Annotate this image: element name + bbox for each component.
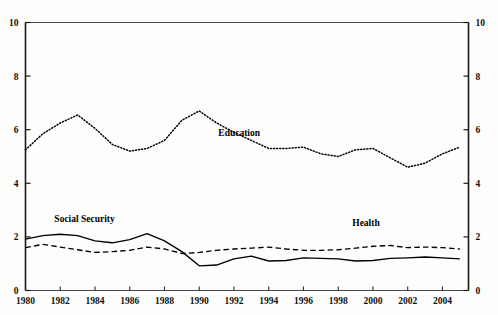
x-tick-label: 1986	[120, 296, 139, 306]
series-line-education	[26, 111, 460, 167]
x-tick-label: 1996	[294, 296, 313, 306]
chart-container: 0246810024681019801982198419861988199019…	[0, 0, 498, 315]
y-tick-label-right: 4	[476, 179, 481, 189]
x-tick-label: 1990	[190, 296, 209, 306]
x-tick-label: 1998	[329, 296, 348, 306]
x-tick-label: 1984	[85, 296, 104, 306]
y-tick-label-right: 6	[476, 125, 481, 135]
y-tick-label-left: 6	[14, 125, 19, 135]
series-line-social-security	[26, 234, 460, 266]
x-tick-label: 1994	[259, 296, 278, 306]
x-tick-label: 1980	[16, 296, 35, 306]
figure-page: 0246810024681019801982198419861988199019…	[0, 0, 498, 315]
x-tick-label: 1988	[155, 296, 174, 306]
x-tick-label: 2004	[433, 296, 452, 306]
y-tick-label-left: 10	[9, 18, 19, 28]
y-tick-label-left: 0	[14, 286, 19, 296]
series-line-health	[26, 244, 460, 253]
x-tick-label: 2002	[398, 296, 417, 306]
y-tick-label-left: 2	[14, 232, 19, 242]
series-label-health: Health	[352, 218, 380, 228]
x-tick-label: 2000	[363, 296, 382, 306]
x-tick-label: 1982	[51, 296, 70, 306]
line-chart: 0246810024681019801982198419861988199019…	[0, 0, 498, 315]
y-tick-label-right: 0	[476, 286, 481, 296]
series-label-social-security: Social Security	[54, 214, 115, 224]
series-label-education: Education	[218, 128, 260, 138]
y-tick-label-left: 8	[14, 72, 19, 82]
y-tick-label-left: 4	[14, 179, 19, 189]
x-tick-label: 1992	[224, 296, 243, 306]
y-tick-label-right: 8	[476, 72, 481, 82]
y-tick-label-right: 10	[476, 18, 486, 28]
y-tick-label-right: 2	[476, 232, 481, 242]
